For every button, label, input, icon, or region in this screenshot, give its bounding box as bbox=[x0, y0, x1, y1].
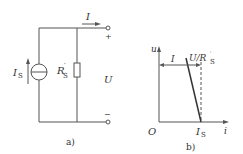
resistor-label: R ′ S bbox=[56, 62, 68, 80]
circuit-figure: I + − U I S R ′ S a) u I U/R ′ S O I S bbox=[0, 0, 243, 154]
x-axis-arrow-icon bbox=[223, 120, 229, 124]
terminal-plus-icon bbox=[106, 26, 110, 30]
caption-b: b) bbox=[186, 142, 195, 152]
source-label: I S bbox=[12, 67, 23, 80]
i-arrow-left-icon bbox=[159, 63, 164, 67]
svg-text:S: S bbox=[201, 131, 206, 139]
circuit-a bbox=[26, 22, 110, 124]
ur-arrow-right-icon bbox=[196, 63, 201, 67]
branch-current-label: U/R ′ S bbox=[189, 50, 215, 66]
svg-text:′: ′ bbox=[210, 50, 212, 57]
svg-text:U/R: U/R bbox=[189, 53, 207, 63]
svg-text:S: S bbox=[210, 58, 215, 66]
plus-sign: + bbox=[105, 32, 112, 41]
x-axis-label: i bbox=[224, 126, 227, 136]
svg-text:S: S bbox=[18, 72, 23, 80]
resistor-icon bbox=[74, 63, 80, 77]
svg-text:S: S bbox=[63, 72, 68, 80]
caption-a: a) bbox=[66, 137, 75, 147]
current-arrow-icon bbox=[95, 22, 101, 26]
y-axis-label: u bbox=[151, 44, 157, 54]
current-label: I bbox=[85, 11, 91, 22]
origin-label: O bbox=[148, 126, 156, 137]
source-arrow-icon bbox=[26, 58, 30, 64]
intercept-label: I S bbox=[195, 126, 206, 139]
svg-text:′: ′ bbox=[64, 62, 66, 70]
terminal-minus-icon bbox=[106, 120, 110, 124]
characteristic-line bbox=[186, 58, 201, 122]
minus-sign: − bbox=[104, 110, 111, 119]
y-axis-arrow-icon bbox=[157, 46, 161, 52]
voltage-label: U bbox=[104, 74, 113, 85]
graph-current-label: I bbox=[170, 54, 175, 64]
